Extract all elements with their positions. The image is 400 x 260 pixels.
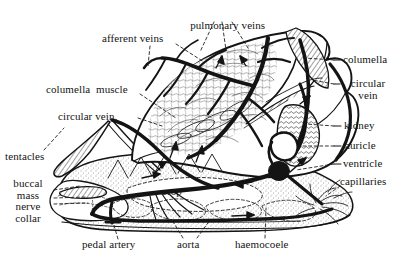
label-kidney: kidney [344,120,375,132]
label-tentacles: tentacles [5,151,44,163]
label-aorta: aorta [177,239,199,251]
label-pedal-artery: pedal artery [82,239,135,251]
label-columella: columella [343,54,387,66]
label-circular-vein-left: circular vein. [58,111,117,123]
auricle-body [271,133,298,161]
label-haemocoele: haemocoele [235,239,289,251]
diagram-ink [44,22,358,239]
label-columella-muscle: columella muscle [46,84,128,96]
label-buccal-mass-nerve-collar: buccal mass nerve collar [2,178,54,224]
label-afferent-veins: afferent veins [102,33,163,45]
figure-canvas: pulmonary veins afferent veins columella… [0,0,400,260]
label-auricle: auricle [345,140,376,152]
label-circular-vein-right: circular vein [340,78,396,101]
label-capillaries: capillaries [340,176,386,188]
label-crop: crop [162,186,182,198]
label-ventricle: ventricle [343,158,382,170]
label-pulmonary-veins: pulmonary veins [0,8,400,43]
